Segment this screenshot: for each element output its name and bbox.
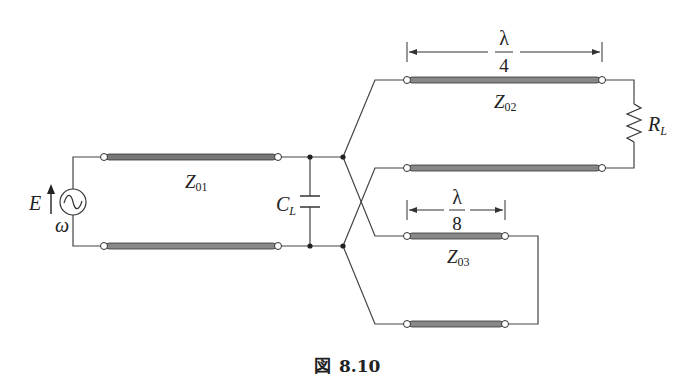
capacitor-symbol	[300, 196, 320, 207]
resistor-symbol	[627, 104, 641, 142]
z03-label: Z03	[447, 246, 470, 269]
z02-length-numerator: λ	[499, 27, 509, 49]
z03-length-numerator: λ	[452, 186, 462, 208]
wires	[73, 80, 634, 324]
circuit-diagram: λ 4 λ 8 Z01 Z02 Z03 CL RL E ω 図8.10	[0, 0, 694, 388]
z02-length-denominator: 4	[499, 55, 509, 76]
resistor-label: RL	[647, 113, 667, 138]
z02-label: Z02	[494, 91, 517, 114]
z03-length-denominator: 8	[452, 213, 462, 234]
ac-source-symbol	[47, 184, 86, 215]
transmission-line-z01	[101, 154, 282, 250]
junction-dots	[307, 154, 345, 248]
source-voltage-label: E	[28, 192, 41, 214]
z01-label: Z01	[185, 171, 208, 194]
capacitor-label: CL	[276, 193, 296, 218]
figure-caption: 図8.10	[314, 356, 381, 376]
source-frequency-label: ω	[55, 214, 69, 236]
